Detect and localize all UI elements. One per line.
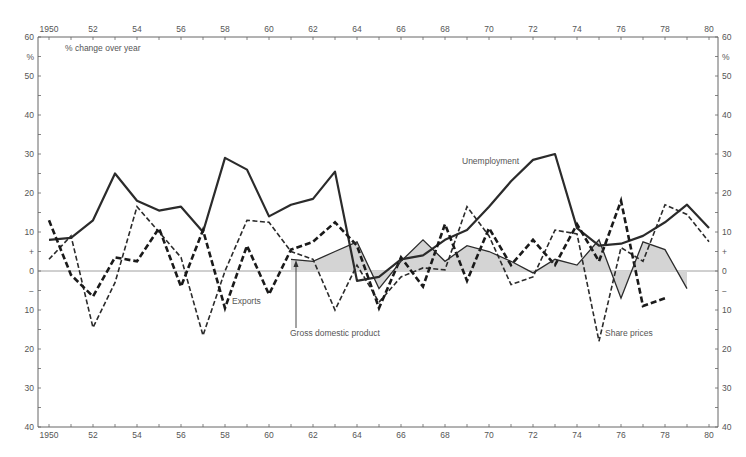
y-tick-label-right: 50 (722, 71, 732, 81)
x-tick-label-top: 54 (132, 24, 142, 34)
axes: 1950195052525454565658586060626264646666… (25, 24, 732, 440)
x-tick-label-top: 68 (440, 24, 450, 34)
y-tick-label-left: 40 (25, 110, 35, 120)
x-tick-label-top: 1950 (40, 24, 59, 34)
y-tick-label-right: + (722, 247, 727, 257)
x-tick-label-bottom: 64 (352, 430, 362, 440)
y-tick-label-left: % (26, 52, 34, 62)
unemployment-label: Unemployment (462, 156, 520, 166)
y-tick-label-right: 20 (722, 188, 732, 198)
x-tick-label-top: 64 (352, 24, 362, 34)
y-tick-label-right: % (722, 52, 730, 62)
y-tick-label-left: 10 (25, 227, 35, 237)
x-tick-label-bottom: 58 (220, 430, 230, 440)
x-tick-label-top: 62 (308, 24, 318, 34)
x-tick-label-top: 66 (396, 24, 406, 34)
y-tick-label-right: 0 (722, 266, 727, 276)
x-tick-label-bottom: 72 (528, 430, 538, 440)
y-tick-label-right: 40 (722, 422, 732, 432)
y-tick-label-right: 10 (722, 227, 732, 237)
y-tick-label-left: − (29, 286, 34, 296)
x-tick-label-bottom: 76 (616, 430, 626, 440)
y-tick-label-left: + (29, 247, 34, 257)
annotation-text: % change over year (65, 43, 141, 53)
y-tick-label-left: 60 (25, 32, 35, 42)
x-tick-label-bottom: 68 (440, 430, 450, 440)
x-tick-label-bottom: 80 (704, 430, 714, 440)
y-tick-label-left: 20 (25, 344, 35, 354)
x-tick-label-bottom: 1950 (40, 430, 59, 440)
y-tick-label-left: 30 (25, 383, 35, 393)
chart-canvas: 1950195052525454565658586060626264646666… (0, 0, 746, 457)
x-tick-label-top: 70 (484, 24, 494, 34)
x-tick-label-bottom: 60 (264, 430, 274, 440)
y-tick-label-left: 20 (25, 188, 35, 198)
x-tick-label-bottom: 74 (572, 430, 582, 440)
y-tick-label-right: 10 (722, 305, 732, 315)
x-tick-label-top: 74 (572, 24, 582, 34)
y-tick-label-left: 30 (25, 149, 35, 159)
gdp-label: Gross domestic product (290, 328, 380, 338)
y-tick-label-right: 30 (722, 149, 732, 159)
y-tick-label-left: 50 (25, 71, 35, 81)
x-tick-label-top: 76 (616, 24, 626, 34)
x-tick-label-top: 78 (660, 24, 670, 34)
y-tick-label-right: 60 (722, 32, 732, 42)
x-tick-label-bottom: 56 (176, 430, 186, 440)
x-tick-label-bottom: 66 (396, 430, 406, 440)
x-tick-label-bottom: 70 (484, 430, 494, 440)
exports-label: Exports (232, 296, 261, 306)
series-lines (49, 154, 709, 341)
x-tick-label-bottom: 52 (88, 430, 98, 440)
x-tick-label-top: 56 (176, 24, 186, 34)
unemployment-line (49, 154, 709, 281)
y-tick-label-left: 40 (25, 422, 35, 432)
x-tick-label-top: 52 (88, 24, 98, 34)
x-tick-label-bottom: 62 (308, 430, 318, 440)
y-tick-label-right: − (722, 286, 727, 296)
y-tick-label-left: 0 (29, 266, 34, 276)
y-tick-label-right: 40 (722, 110, 732, 120)
x-tick-label-bottom: 54 (132, 430, 142, 440)
x-tick-label-top: 72 (528, 24, 538, 34)
x-tick-label-top: 80 (704, 24, 714, 34)
x-tick-label-top: 60 (264, 24, 274, 34)
x-tick-label-top: 58 (220, 24, 230, 34)
share-prices-label: Share prices (605, 328, 653, 338)
y-tick-label-right: 30 (722, 383, 732, 393)
y-tick-label-left: 10 (25, 305, 35, 315)
x-tick-label-bottom: 78 (660, 430, 670, 440)
series-labels: % change over year Unemployment Exports … (65, 43, 653, 338)
y-tick-label-right: 20 (722, 344, 732, 354)
